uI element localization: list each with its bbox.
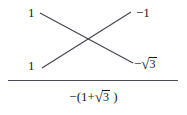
left-bottom-coefficient: 1 [28, 59, 35, 72]
descending-cross-line [40, 13, 133, 63]
horizontal-divider-rule [8, 80, 178, 81]
result-expression: −(1+√3 ) [0, 89, 187, 105]
right-bottom-coefficient: −√3 [134, 56, 157, 72]
square-root-icon: √3 [141, 56, 156, 72]
left-top-coefficient: 1 [28, 6, 35, 19]
radicand-value: 3 [149, 57, 157, 72]
cross-multiplication-figure: 1 1 −1 −√3 −(1+√3 ) [0, 0, 187, 115]
right-top-coefficient: −1 [136, 6, 150, 19]
result-radicand-value: 3 [102, 90, 110, 105]
ascending-cross-line [42, 12, 131, 68]
result-square-root-icon: √3 [95, 89, 110, 105]
result-prefix: −(1+ [69, 89, 95, 104]
minus-sign: − [134, 56, 141, 71]
result-suffix: ) [110, 89, 118, 104]
